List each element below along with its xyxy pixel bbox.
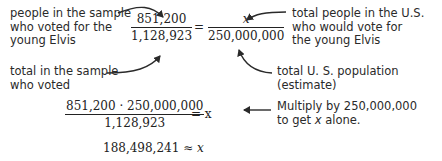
arrow-us-population-to-denominator bbox=[239, 50, 272, 73]
arrow-us-voted-to-x bbox=[247, 12, 286, 20]
arrow-sample-voted-to-numerator bbox=[118, 7, 163, 17]
arrows-layer bbox=[0, 0, 442, 161]
arrow-sample-total-to-denominator bbox=[107, 56, 160, 73]
